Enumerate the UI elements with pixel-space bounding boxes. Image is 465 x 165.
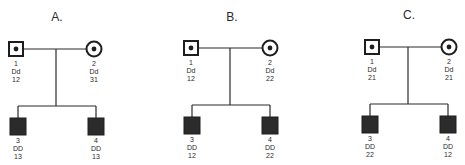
affected-male-square-symbol xyxy=(10,118,26,135)
affected-male-square-symbol xyxy=(184,117,200,134)
individual-number: 2 xyxy=(268,59,272,66)
carrier-dot-icon xyxy=(189,46,194,51)
pedigree-individual-male-carrier: 1 Dd 12 xyxy=(184,41,198,82)
individual-number: 1 xyxy=(189,59,193,66)
haplotype-label: 22 xyxy=(266,75,274,82)
genotype-label: Dd xyxy=(12,68,21,75)
pedigree-panel-b: B. 1 Dd 12 2 Dd 22 3 DD 12 4 xyxy=(184,10,278,159)
haplotype-label: 12 xyxy=(12,76,20,83)
pedigree-individual-female-carrier: 2 Dd 22 xyxy=(263,41,278,83)
haplotype-label: 22 xyxy=(266,152,274,159)
carrier-dot-icon xyxy=(14,47,19,52)
pedigree-panel-c: C. 1 Dd 21 2 Dd 21 3 DD 22 4 xyxy=(362,8,457,158)
haplotype-label: 31 xyxy=(90,76,98,83)
haplotype-label: 21 xyxy=(445,74,453,81)
genotype-label: DD xyxy=(187,144,197,151)
genotype-label: DD xyxy=(265,144,275,151)
individual-number: 3 xyxy=(190,136,194,143)
pedigree-individual-male-carrier: 1 Dd 21 xyxy=(365,40,379,81)
carrier-dot-icon xyxy=(268,46,273,51)
genotype-label: Dd xyxy=(90,68,99,75)
individual-number: 4 xyxy=(268,136,272,143)
individual-number: 2 xyxy=(92,60,96,67)
genotype-label: Dd xyxy=(266,67,275,74)
genotype-label: DD xyxy=(13,145,23,152)
pedigree-individual-female-carrier: 2 Dd 21 xyxy=(442,40,457,82)
genotype-label: DD xyxy=(365,143,375,150)
individual-number: 4 xyxy=(446,135,450,142)
pedigree-individual-male-affected: 4 DD 12 xyxy=(440,116,456,158)
carrier-dot-icon xyxy=(370,45,375,50)
genotype-label: Dd xyxy=(368,66,377,73)
individual-number: 1 xyxy=(370,58,374,65)
genotype-label: Dd xyxy=(187,67,196,74)
pedigree-individual-male-affected: 4 DD 22 xyxy=(262,117,278,159)
genotype-label: DD xyxy=(443,143,453,150)
pedigree-individual-male-affected: 3 DD 13 xyxy=(10,118,26,160)
carrier-dot-icon xyxy=(447,45,452,50)
pedigree-individual-male-affected: 3 DD 22 xyxy=(362,116,378,158)
pedigree-individual-female-carrier: 2 Dd 31 xyxy=(87,42,102,84)
carrier-dot-icon xyxy=(92,47,97,52)
affected-male-square-symbol xyxy=(262,117,278,134)
haplotype-label: 12 xyxy=(444,151,452,158)
individual-number: 3 xyxy=(16,137,20,144)
haplotype-label: 13 xyxy=(92,153,100,160)
panel-title: B. xyxy=(226,10,237,24)
affected-male-square-symbol xyxy=(88,118,104,135)
pedigree-panel-a: A. 1 Dd 12 2 Dd 31 3 DD 13 xyxy=(9,10,104,160)
individual-number: 4 xyxy=(94,137,98,144)
affected-male-square-symbol xyxy=(362,116,378,133)
panel-title: C. xyxy=(403,8,415,22)
pedigree-figure: A. 1 Dd 12 2 Dd 31 3 DD 13 xyxy=(0,0,465,165)
individual-number: 1 xyxy=(14,60,18,67)
pedigree-individual-male-affected: 4 DD 13 xyxy=(88,118,104,160)
haplotype-label: 22 xyxy=(366,151,374,158)
haplotype-label: 13 xyxy=(14,153,22,160)
individual-number: 2 xyxy=(447,58,451,65)
haplotype-label: 12 xyxy=(188,152,196,159)
individual-number: 3 xyxy=(368,135,372,142)
haplotype-label: 12 xyxy=(187,75,195,82)
pedigree-individual-male-affected: 3 DD 12 xyxy=(184,117,200,159)
pedigree-individual-male-carrier: 1 Dd 12 xyxy=(9,42,23,83)
genotype-label: Dd xyxy=(445,66,454,73)
haplotype-label: 21 xyxy=(368,74,376,81)
genotype-label: DD xyxy=(91,145,101,152)
panel-title: A. xyxy=(51,10,62,24)
affected-male-square-symbol xyxy=(440,116,456,133)
